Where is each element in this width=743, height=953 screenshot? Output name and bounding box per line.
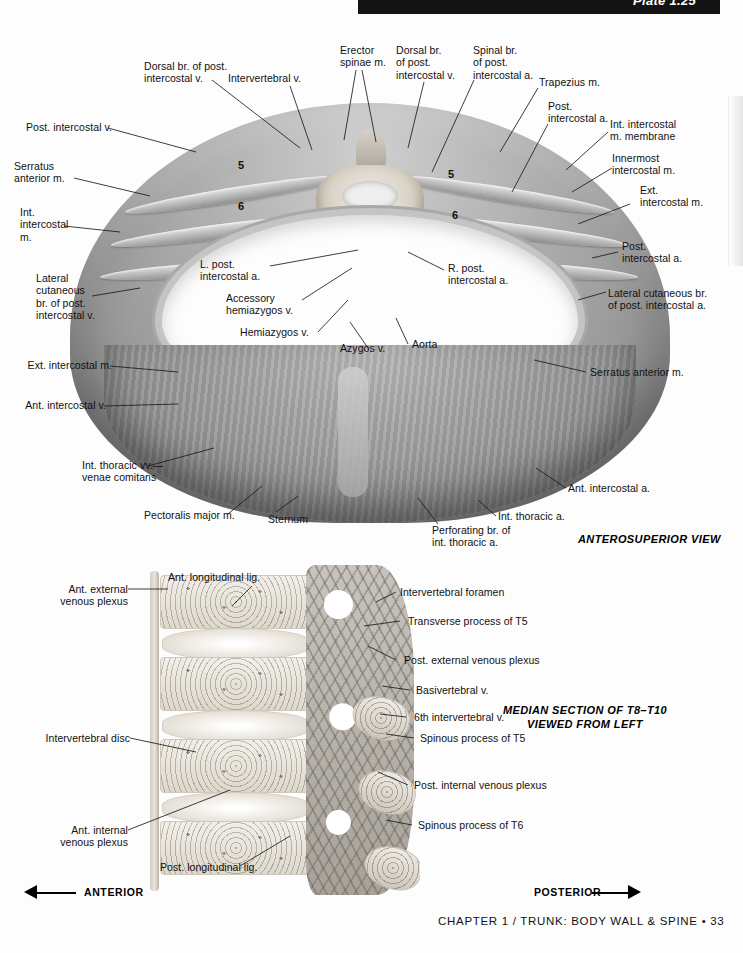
label-int-intercostal-m: Int. intercostal m. <box>20 206 68 243</box>
label-int-thoracic-a: Int. thoracic a. <box>498 510 565 522</box>
label-dorsal-br-post-intercostal-v-left: Dorsal br. of post. intercostal v. <box>144 60 227 85</box>
label-l-post-intercostal-a: L. post. intercostal a. <box>200 258 260 283</box>
anterior-longitudinal-ligament-shape <box>150 571 159 891</box>
spine-median-section-illustration <box>120 565 420 895</box>
label-ant-longitudinal-lig: Ant. longitudinal lig. <box>168 571 260 583</box>
label-post-intercostal-v: Post. intercostal v. <box>8 121 112 133</box>
label-intervertebral-v: Intervertebral v. <box>228 72 301 84</box>
label-pectoralis-major-m: Pectoralis major m. <box>144 509 235 521</box>
posterior-arrow-shaft <box>592 892 630 894</box>
page-footer: CHAPTER 1 / TRUNK: BODY WALL & SPINE • 3… <box>438 915 724 927</box>
label-serratus-anterior-m-left: Serratus anterior m. <box>14 160 65 185</box>
vertebral-body-3 <box>160 739 312 793</box>
rib-number-right-6: 6 <box>452 209 458 221</box>
label-post-longitudinal-lig: Post. longitudinal lig. <box>160 861 257 873</box>
label-trapezius-m: Trapezius m. <box>539 76 600 88</box>
label-basivertebral-v: Basivertebral v. <box>416 684 488 696</box>
label-ant-internal-venous-plexus: Ant. internal venous plexus <box>10 824 128 849</box>
anterior-arrow-shaft <box>36 892 76 894</box>
label-accessory-hemiazygos-v: Accessory hemiazygos v. <box>226 292 293 317</box>
label-post-internal-venous-plexus: Post. internal venous plexus <box>414 779 547 791</box>
label-ext-intercostal-m-right: Ext. intercostal m. <box>640 184 703 209</box>
label-intervertebral-foramen: Intervertebral foramen <box>400 586 504 598</box>
label-r-post-intercostal-a: R. post. intercostal a. <box>448 262 508 287</box>
label-intervertebral-disc: Intervertebral disc <box>4 732 130 744</box>
label-spinal-br-post-intercostal-a: Spinal br. of post. intercostal a. <box>473 44 533 81</box>
label-spinous-process-t5: Spinous process of T5 <box>420 732 525 744</box>
label-ant-intercostal-a: Ant. intercostal a. <box>568 482 650 494</box>
label-azygos-v: Azygos v. <box>340 342 385 354</box>
label-int-thoracic-vv: Int. thoracic vv.— venae comitans <box>82 459 163 484</box>
intervertebral-disc-1 <box>162 628 310 660</box>
rib-number-left-5: 5 <box>238 159 244 171</box>
posterior-arrow-head <box>628 885 641 899</box>
label-innermost-intercostal-m: Innermost intercostal m. <box>612 152 675 177</box>
intervertebral-disc-2 <box>162 710 310 742</box>
page-edge-tab <box>728 96 743 266</box>
vertebral-body-2 <box>160 657 312 711</box>
label-hemiazygos-v: Hemiazygos v. <box>240 326 309 338</box>
label-transverse-process-t5: Transverse process of T5 <box>408 615 528 627</box>
label-serratus-anterior-m-right: Serratus anterior m. <box>590 366 684 378</box>
anterior-arrow-head <box>24 885 37 899</box>
label-spinous-process-t6: Spinous process of T6 <box>418 819 523 831</box>
label-perforating-br-int-thoracic-a: Perforating br. of int. thoracic a. <box>432 524 511 549</box>
label-ant-external-venous-plexus: Ant. external venous plexus <box>12 583 128 608</box>
label-int-intercostal-m-membrane: Int. intercostal m. membrane <box>610 118 676 143</box>
anterior-chest-wall <box>104 345 636 523</box>
plate-number: Plate 1.25 <box>633 0 696 8</box>
label-post-intercostal-a-upper: Post. intercostal a. <box>548 100 608 125</box>
caption-median-section: MEDIAN SECTION OF T8–T10 VIEWED FROM LEF… <box>470 703 700 731</box>
rib-number-right-5: 5 <box>448 168 454 180</box>
sternum-shape <box>338 367 368 497</box>
atlas-page: Plate 1.25 5 6 5 6 <box>0 0 743 953</box>
label-lateral-cutaneous-br-post-intercostal-a: Lateral cutaneous br. of post. intercost… <box>608 287 707 312</box>
caption-anterosuperior-view: ANTEROSUPERIOR VIEW <box>578 532 721 546</box>
label-erector-spinae-m: Erector spinae m. <box>340 44 386 69</box>
label-sternum: Sternum <box>268 513 308 525</box>
intervertebral-disc-3 <box>162 792 310 824</box>
label-ext-intercostal-m-left: Ext. intercostal m. <box>0 359 112 371</box>
label-dorsal-br-post-intercostal-v-right: Dorsal br. of post. intercostal v. <box>396 44 455 81</box>
label-ant-intercostal-v: Ant. intercostal v. <box>0 399 106 411</box>
label-lateral-cutaneous-br-post-intercostal-v: Lateral cutaneous br. of post. intercost… <box>36 272 95 322</box>
direction-label-anterior: ANTERIOR <box>84 886 144 898</box>
label-post-external-venous-plexus: Post. external venous plexus <box>404 654 540 666</box>
plate-header-bar: Plate 1.25 <box>358 0 720 14</box>
rib-number-left-6: 6 <box>238 200 244 212</box>
label-aorta: Aorta <box>412 338 437 350</box>
label-post-intercostal-a-lower: Post. intercostal a. <box>622 240 682 265</box>
